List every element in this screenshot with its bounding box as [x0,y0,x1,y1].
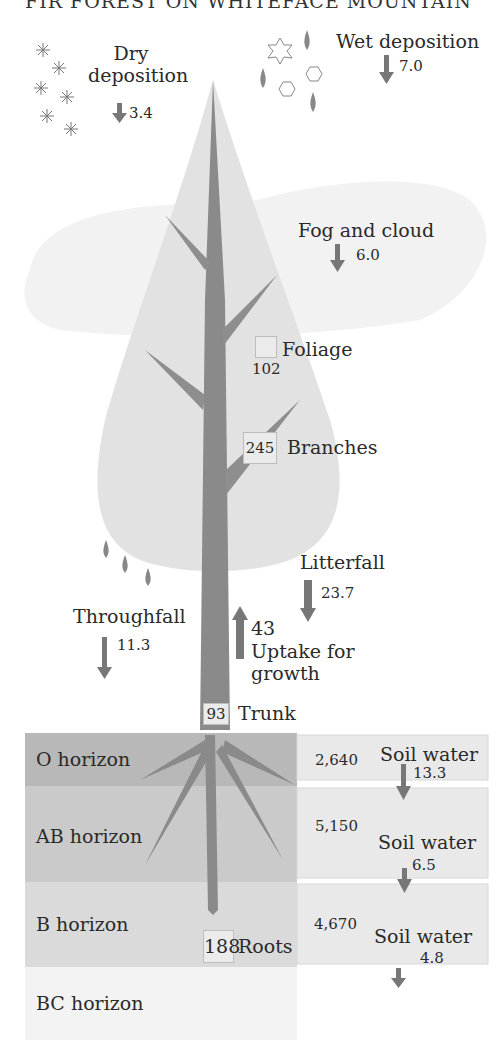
o-horizon-soil-water-value: 13.3 [413,764,446,782]
trunk-label: Trunk [238,702,296,724]
ab-horizon-pool: 5,150 [315,817,358,835]
uptake-label-line1: Uptake for [251,640,355,662]
branches-label: Branches [287,436,377,458]
dry-deposition-label-line2: deposition [88,64,174,86]
throughfall-label: Throughfall [73,605,186,627]
trunk-value: 93 [203,703,229,725]
foliage-label: Foliage [282,338,352,360]
diagram-title: FIR FOREST ON WHITEFACE MOUNTAIN [0,0,497,12]
dry-deposition-label-line1: Dry [88,42,174,64]
wet-deposition-value: 7.0 [399,57,423,75]
roots-label: Roots [238,935,293,957]
uptake-value: 43 [251,617,275,639]
bc-horizon-label: BC horizon [36,992,143,1014]
b-horizon-label: B horizon [36,913,129,935]
uptake-label-line2: growth [251,662,320,684]
diagram-artwork [0,0,497,1052]
foliage-pool-box [255,336,277,358]
roots-value: 188 [204,935,240,957]
b-horizon-soil-water-value: 4.8 [420,949,444,967]
o-horizon-label: O horizon [36,748,130,770]
dry-deposition-value: 3.4 [129,104,153,122]
litterfall-label: Litterfall [300,551,385,573]
o-horizon-pool: 2,640 [315,751,358,769]
fog-and-cloud-label: Fog and cloud [298,219,434,241]
dry-deposition-asterisk-icons [34,43,78,136]
ab-horizon-soil-water-value: 6.5 [412,856,436,874]
foliage-value: 102 [252,360,281,378]
throughfall-value: 11.3 [117,636,150,654]
ab-horizon-label: AB horizon [36,825,142,847]
fog-and-cloud-value: 6.0 [356,246,380,264]
branches-value: 245 [243,432,277,464]
ab-horizon-soil-water-label: Soil water [378,831,476,853]
b-horizon-pool: 4,670 [314,915,357,933]
wet-deposition-label: Wet deposition [336,30,479,52]
dry-deposition-label: Dry deposition [88,42,174,86]
o-horizon-soil-water-label: Soil water [380,743,478,765]
litterfall-value: 23.7 [321,584,354,602]
wet-deposition-icons [260,30,322,112]
b-horizon-soil-water-label: Soil water [374,925,472,947]
